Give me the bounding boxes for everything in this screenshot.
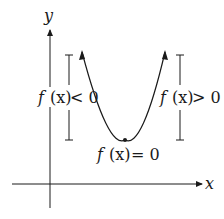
label-negative: f (x) < 0	[37, 87, 99, 107]
svg-text:< 0: < 0	[70, 88, 99, 107]
parabola-diagram: y x f (x) < 0 f (x) > 0 f (x) =	[0, 0, 224, 219]
svg-text:f: f	[96, 145, 106, 164]
label-zero: f (x) = 0	[96, 145, 160, 164]
arrow-right-end-icon	[162, 50, 168, 60]
svg-text:(x): (x)	[50, 88, 72, 107]
vertex-point	[123, 138, 127, 142]
svg-text:(x): (x)	[109, 145, 131, 164]
y-axis-label: y	[43, 6, 54, 25]
svg-text:> 0: > 0	[192, 88, 221, 107]
arrow-left-end-icon	[79, 50, 85, 60]
svg-text:= 0: = 0	[131, 145, 160, 164]
label-positive: f (x) > 0	[159, 87, 221, 107]
x-axis-label: x	[205, 174, 214, 193]
svg-text:(x): (x)	[172, 88, 194, 107]
